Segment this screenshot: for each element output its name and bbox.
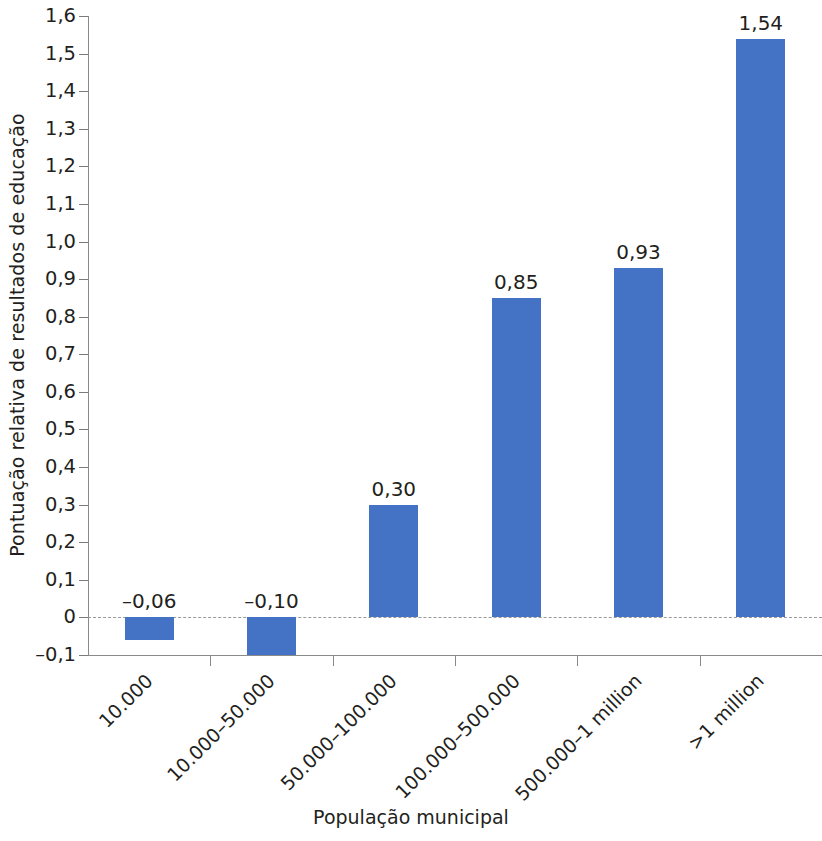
y-axis-tick-mark: [79, 354, 88, 355]
y-axis-tick-mark: [79, 542, 88, 543]
y-axis-tick-label: 1,3: [20, 119, 76, 139]
bar-value-label: –0,10: [244, 591, 299, 611]
y-axis-tick-label: 1,5: [20, 44, 76, 64]
y-axis-tick-mark: [79, 204, 88, 205]
y-axis-tick-label: 1,2: [20, 157, 76, 177]
y-axis-tick-label: 0,8: [20, 307, 76, 327]
x-axis-title: População municipal: [0, 806, 822, 828]
bar-value-label: 0,93: [616, 242, 661, 262]
y-axis-tick-label: 1,0: [20, 232, 76, 252]
bar-value-label: 0,85: [494, 272, 539, 292]
x-axis-category-label: >1 million: [685, 671, 767, 753]
y-axis-tick-mark: [79, 166, 88, 167]
x-axis-tick-mark: [577, 655, 578, 666]
x-axis-tick-mark: [210, 655, 211, 666]
bar-value-label: 0,30: [372, 479, 417, 499]
bar: [614, 268, 663, 618]
bar-value-label: 1,54: [739, 13, 784, 33]
y-axis-tick-mark: [79, 655, 88, 656]
bar: [492, 298, 541, 618]
y-axis-tick-label: 0: [20, 608, 76, 628]
y-axis-tick-label: 0,9: [20, 269, 76, 289]
y-axis-tick-label: 0,1: [20, 570, 76, 590]
zero-reference-line: [88, 617, 822, 618]
bar-value-label: –0,06: [122, 591, 177, 611]
x-axis-category-label: 10.000–50.000: [164, 671, 278, 785]
y-axis-tick-mark: [79, 16, 88, 17]
x-axis-tick-mark: [333, 655, 334, 666]
bar: [125, 617, 174, 640]
x-axis-tick-mark: [700, 655, 701, 666]
plot-area: –0,06–0,100,300,850,931,54: [88, 16, 822, 655]
x-axis-category-label: 500.000–1 million: [512, 671, 645, 804]
y-axis-tick-mark: [79, 392, 88, 393]
y-axis-tick-label: 0,3: [20, 495, 76, 515]
y-axis-tick-mark: [79, 580, 88, 581]
y-axis-tick-labels: 1,61,51,41,31,21,11,00,90,80,70,60,50,40…: [20, 0, 76, 841]
y-axis-tick-mark: [79, 91, 88, 92]
bar: [247, 617, 296, 655]
y-axis-tick-mark: [79, 54, 88, 55]
y-axis-tick-mark: [79, 279, 88, 280]
x-axis-category-label: 100.000–500.000: [392, 671, 523, 802]
x-axis-category-label: 10.000: [95, 671, 155, 731]
bar: [369, 505, 418, 618]
y-axis-tick-label: 1,1: [20, 194, 76, 214]
y-axis-tick-mark: [79, 129, 88, 130]
x-axis-tick-mark: [455, 655, 456, 666]
y-axis-tick-label: 0,7: [20, 345, 76, 365]
y-axis-tick-label: 1,6: [20, 6, 76, 26]
y-axis-tick-mark: [79, 617, 88, 618]
y-axis-tick-mark: [79, 317, 88, 318]
y-axis-tick-label: 0,5: [20, 420, 76, 440]
x-axis-category-label: 50.000–100.000: [278, 671, 401, 794]
y-axis-tick-label: 0,6: [20, 382, 76, 402]
bar-chart: Pontuação relativa de resultados de educ…: [0, 0, 822, 841]
bar: [736, 39, 785, 618]
y-axis-line: [88, 16, 89, 655]
y-axis-tick-label: 0,2: [20, 532, 76, 552]
y-axis-tick-mark: [79, 429, 88, 430]
y-axis-tick-mark: [79, 242, 88, 243]
y-axis-tick-label: –0,1: [20, 645, 76, 665]
y-axis-tick-label: 0,4: [20, 457, 76, 477]
y-axis-tick-label: 1,4: [20, 81, 76, 101]
y-axis-tick-mark: [79, 467, 88, 468]
y-axis-tick-mark: [79, 505, 88, 506]
